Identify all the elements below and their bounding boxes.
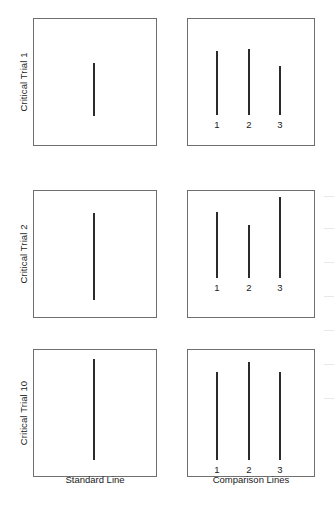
scan-artifact bbox=[324, 296, 334, 297]
scan-artifact bbox=[324, 330, 334, 331]
trial-row: Critical Trial 2 1 2 3 bbox=[0, 190, 336, 318]
standard-line-trial-10 bbox=[93, 359, 95, 460]
standard-line-trial-1 bbox=[93, 63, 95, 116]
row-label-trial-10: Critical Trial 10 bbox=[18, 348, 29, 478]
scan-artifact bbox=[324, 262, 334, 263]
comparison-label-2-trial-1: 2 bbox=[242, 119, 256, 130]
trial-row: Critical Trial 1 1 2 3 bbox=[0, 18, 336, 146]
comparison-lines-panel-trial-1: 1 2 3 bbox=[187, 18, 315, 146]
standard-line-panel-trial-2 bbox=[33, 190, 157, 318]
comparison-line-1-trial-2 bbox=[216, 212, 218, 278]
row-label-trial-2: Critical Trial 2 bbox=[18, 189, 29, 319]
row-label-trial-1: Critical Trial 1 bbox=[18, 17, 29, 147]
comparison-label-3-trial-1: 3 bbox=[273, 119, 287, 130]
comparison-line-2-trial-10 bbox=[248, 362, 250, 460]
trial-row: Critical Trial 10 1 2 3 bbox=[0, 349, 336, 477]
comparison-line-2-trial-1 bbox=[248, 49, 250, 115]
standard-line-panel-trial-1 bbox=[33, 18, 157, 146]
comparison-label-3-trial-2: 3 bbox=[273, 282, 287, 293]
comparison-line-1-trial-1 bbox=[216, 51, 218, 115]
comparison-label-2-trial-2: 2 bbox=[242, 282, 256, 293]
comparison-line-3-trial-1 bbox=[279, 66, 281, 115]
comparison-label-1-trial-1: 1 bbox=[210, 119, 224, 130]
scan-artifact bbox=[324, 364, 334, 365]
comparison-line-1-trial-10 bbox=[216, 372, 218, 460]
scan-artifact bbox=[324, 398, 334, 399]
standard-line-trial-2 bbox=[93, 213, 95, 300]
comparison-line-2-trial-2 bbox=[248, 225, 250, 278]
comparison-lines-panel-trial-10: 1 2 3 bbox=[187, 349, 315, 477]
scan-artifact bbox=[324, 228, 334, 229]
caption-standard-line: Standard Line bbox=[33, 474, 157, 485]
comparison-line-3-trial-10 bbox=[279, 372, 281, 460]
line-judgment-figure: Critical Trial 1 1 2 3 Critical Trial 2 … bbox=[0, 0, 336, 505]
scan-artifact bbox=[324, 196, 334, 197]
caption-comparison-lines: Comparison Lines bbox=[187, 474, 315, 485]
comparison-line-3-trial-2 bbox=[279, 197, 281, 278]
comparison-label-1-trial-2: 1 bbox=[210, 282, 224, 293]
standard-line-panel-trial-10 bbox=[33, 349, 157, 477]
comparison-lines-panel-trial-2: 1 2 3 bbox=[187, 190, 315, 318]
